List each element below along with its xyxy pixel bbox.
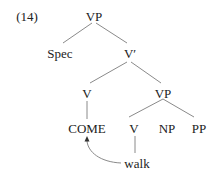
node-walk: walk bbox=[124, 157, 149, 170]
branch-vp-spec bbox=[63, 23, 92, 43]
node-v-lower: V bbox=[129, 122, 138, 135]
branch-vbar-vp bbox=[131, 62, 161, 83]
node-come: COME bbox=[68, 122, 106, 135]
node-v-head: V bbox=[82, 87, 91, 100]
triangle-vp bbox=[129, 99, 194, 117]
movement-arrow-path bbox=[87, 141, 121, 163]
arrowhead-icon bbox=[85, 136, 90, 142]
node-pp: PP bbox=[192, 122, 206, 135]
branch-vbar-v bbox=[90, 62, 127, 83]
node-spec: Spec bbox=[47, 47, 72, 60]
node-vp-root: VP bbox=[86, 10, 103, 23]
node-np: NP bbox=[159, 122, 176, 135]
syntax-tree-diagram: (14) VP Spec V′ V VP COME V NP PP walk bbox=[0, 0, 214, 176]
branch-vp-vbar bbox=[96, 23, 127, 43]
tree-branches bbox=[0, 0, 214, 176]
node-vp-lower: VP bbox=[155, 87, 172, 100]
node-v-bar: V′ bbox=[124, 47, 136, 60]
example-number: (14) bbox=[16, 10, 38, 23]
